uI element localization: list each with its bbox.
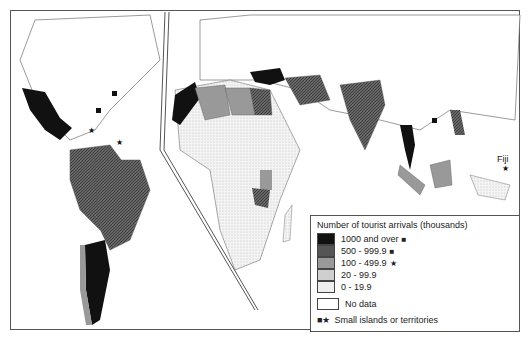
legend-title: Number of tourist arrivals (thousands) bbox=[317, 220, 513, 230]
fiji-label: Fiji bbox=[497, 154, 509, 164]
svg-text:★: ★ bbox=[502, 164, 509, 173]
hongkong-marker bbox=[432, 118, 437, 123]
swatch-white bbox=[317, 298, 339, 310]
legend-item-no-data: No data bbox=[317, 298, 513, 310]
legend-item-100-499: 100 - 499.9★ bbox=[317, 257, 513, 269]
svg-text:★: ★ bbox=[116, 138, 123, 147]
legend-item-0-19: 0 - 19.9 bbox=[317, 281, 513, 293]
swatch-dark-hatch bbox=[317, 245, 335, 257]
kenya bbox=[260, 170, 272, 190]
swatch-mid-grey bbox=[317, 257, 335, 269]
legend-item-20-99: 20 - 99.9 bbox=[317, 269, 513, 281]
bahamas-marker bbox=[96, 108, 101, 113]
borneo bbox=[430, 160, 452, 188]
madagascar bbox=[283, 205, 292, 242]
island-markers-icon: ■★ bbox=[317, 315, 330, 325]
brazil bbox=[95, 160, 150, 250]
new-guinea bbox=[470, 175, 510, 200]
svg-text:★: ★ bbox=[88, 126, 95, 135]
swatch-dotted bbox=[317, 281, 335, 293]
legend: Number of tourist arrivals (thousands) 1… bbox=[310, 215, 520, 332]
philippines bbox=[450, 110, 465, 135]
india bbox=[340, 80, 385, 150]
legend-item-1000-over: 1000 and over■ bbox=[317, 233, 513, 245]
thailand bbox=[400, 125, 415, 170]
swatch-light-grey bbox=[317, 269, 335, 281]
bermuda-marker bbox=[112, 91, 117, 96]
swatch-black bbox=[317, 233, 335, 245]
sumatra bbox=[398, 165, 425, 195]
legend-item-islands: ■★ Small islands or territories bbox=[317, 314, 513, 326]
legend-item-500-999: 500 - 999.9■ bbox=[317, 245, 513, 257]
